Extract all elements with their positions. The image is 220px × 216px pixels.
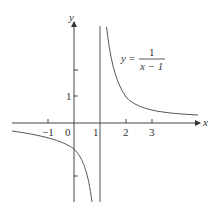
- y-tick-label: 1: [66, 90, 72, 102]
- curve-left-branch: [12, 131, 92, 202]
- function-label: y = 1 x − 1: [120, 46, 165, 72]
- fraction-denominator: x − 1: [139, 60, 163, 72]
- graph: −1 0 1 2 3 1 x y y = 1 x − 1: [0, 0, 220, 216]
- x-tick-label: 0: [65, 126, 71, 138]
- x-tick-label: 2: [123, 126, 129, 138]
- fraction-numerator: 1: [149, 46, 155, 58]
- x-tick-label: 1: [93, 126, 99, 138]
- x-tick-label: −1: [42, 126, 54, 138]
- x-axis-label: x: [202, 116, 208, 128]
- svg-text:y =: y =: [120, 52, 135, 64]
- x-tick-label: 3: [149, 126, 155, 138]
- y-axis-label: y: [68, 11, 74, 23]
